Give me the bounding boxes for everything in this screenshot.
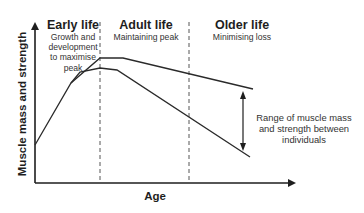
phase-early-life: Early life Growth and development to max… [46,19,100,73]
desc-line: Maintaining peak [108,32,184,42]
phase-description: Maintaining peak [108,32,184,42]
annotation-line: Range of muscle mass [253,112,355,123]
range-arrow-down-icon [240,143,246,151]
desc-line: peak [46,63,100,73]
phase-description: Growth and development to maximise peak [46,32,100,73]
desc-line: to maximise [46,52,100,62]
range-annotation: Range of muscle mass and strength betwee… [253,112,355,145]
phase-title: Older life [208,19,276,32]
phase-title: Adult life [108,19,184,32]
annotation-line: individuals [253,134,355,145]
phase-adult-life: Adult life Maintaining peak [108,19,184,42]
desc-line: Minimising loss [208,32,276,42]
phase-description: Minimising loss [208,32,276,42]
x-axis-label: Age [140,190,170,202]
desc-line: development [46,42,100,52]
phase-title: Early life [46,19,100,32]
annotation-line: and strength between [253,123,355,134]
desc-line: Growth and [46,32,100,42]
range-arrow-up-icon [240,91,246,99]
phase-older-life: Older life Minimising loss [208,19,276,42]
y-axis-label: Muscle mass and strength [16,32,28,176]
